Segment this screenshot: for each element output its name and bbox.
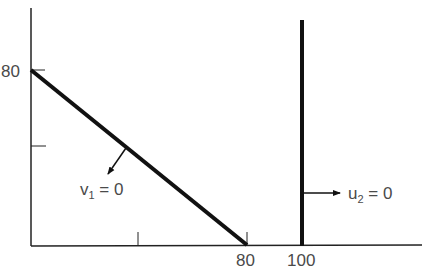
x-axis xyxy=(31,245,422,246)
constraint-diagram: 80 80 100 v1 = 0 u2 = 0 xyxy=(0,0,439,271)
v1-constraint-line xyxy=(31,70,247,245)
v1-label: v1 = 0 xyxy=(80,180,123,201)
u2-label-var: u xyxy=(348,184,357,203)
y-label-80: 80 xyxy=(1,62,20,81)
x-label-100: 100 xyxy=(287,251,315,270)
v1-label-eq: = 0 xyxy=(95,180,124,199)
u2-label-eq: = 0 xyxy=(364,184,393,203)
u2-label: u2 = 0 xyxy=(348,184,392,205)
x-label-80: 80 xyxy=(236,251,255,270)
v1-arrow xyxy=(108,148,126,174)
